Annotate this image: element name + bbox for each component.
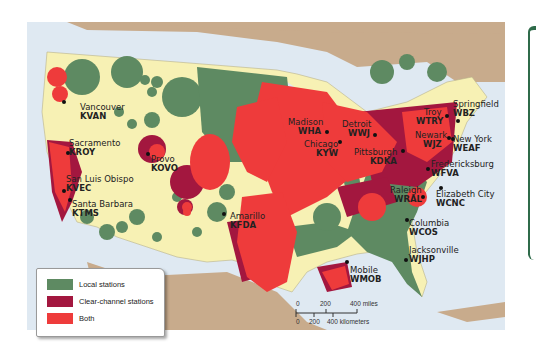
station-label-jacksonville: Jacksonville WJHP bbox=[409, 246, 459, 264]
call-sign: WEAF bbox=[453, 144, 492, 153]
station-label-fredericksburg: Fredericksburg WFVA bbox=[431, 160, 494, 178]
station-label-san-luis-obispo: San Luis Obispo KVEC bbox=[66, 175, 134, 193]
station-label-detroit: Detroit WWJ bbox=[342, 120, 371, 138]
station-label-columbia: Columbia WCOS bbox=[409, 219, 449, 237]
scale-tick: 400 kilometers bbox=[327, 318, 369, 325]
scale-line bbox=[295, 309, 365, 317]
call-sign: KDKA bbox=[370, 157, 397, 166]
station-label-amarillo: Amarillo KFDA bbox=[230, 212, 265, 230]
station-label-provo: Provo KOVO bbox=[151, 155, 178, 173]
call-sign: KVEC bbox=[66, 184, 134, 193]
both-swatch bbox=[47, 313, 73, 324]
call-sign: WRAL bbox=[394, 195, 422, 204]
local-swatch bbox=[47, 279, 73, 290]
call-sign: WJHP bbox=[409, 255, 459, 264]
station-marker bbox=[345, 260, 349, 264]
station-label-newark: Newark WJZ bbox=[415, 131, 447, 149]
call-sign: WWJ bbox=[348, 129, 371, 138]
station-label-elizabeth-city: Elizabeth City WCNC bbox=[436, 190, 494, 208]
station-marker bbox=[62, 100, 66, 104]
legend-label: Both bbox=[79, 314, 94, 323]
scale-tick: 400 miles bbox=[350, 300, 378, 307]
call-sign: WBZ bbox=[453, 109, 499, 118]
call-sign: KOVO bbox=[151, 164, 178, 173]
call-sign: KFDA bbox=[230, 221, 265, 230]
legend-item-both: Both bbox=[47, 312, 94, 324]
station-marker bbox=[445, 114, 449, 118]
call-sign: WTRY bbox=[416, 117, 443, 126]
station-marker bbox=[325, 130, 329, 134]
station-label-mobile: Mobile WMOB bbox=[350, 266, 382, 284]
call-sign: WJZ bbox=[423, 140, 447, 149]
map-legend: Local stations Clear-channel stations Bo… bbox=[36, 268, 165, 337]
scale-tick: 200 bbox=[320, 300, 331, 307]
station-marker bbox=[426, 167, 430, 171]
station-marker bbox=[338, 140, 342, 144]
scale-tick: 0 bbox=[296, 300, 300, 307]
station-label-new-york: New York WEAF bbox=[453, 135, 492, 153]
clear-channel-swatch bbox=[47, 296, 73, 307]
call-sign: WMOB bbox=[350, 275, 382, 284]
station-label-chicago: Chicago KYW bbox=[304, 140, 338, 158]
legend-label: Local stations bbox=[79, 280, 125, 289]
legend-label: Clear-channel stations bbox=[79, 297, 154, 306]
call-sign: KVAN bbox=[80, 112, 125, 121]
call-sign: WCOS bbox=[409, 228, 449, 237]
call-sign: WCNC bbox=[436, 199, 494, 208]
legend-item-clear-channel: Clear-channel stations bbox=[47, 295, 154, 307]
call-sign: KROY bbox=[69, 148, 120, 157]
station-marker bbox=[146, 152, 150, 156]
station-label-raleigh: Raleigh WRAL bbox=[388, 186, 422, 204]
legend-item-local: Local stations bbox=[47, 278, 125, 290]
station-marker bbox=[373, 133, 377, 137]
call-sign: KTMS bbox=[72, 209, 133, 218]
scale-bar: 0 200 400 miles 0 200 400 kilometers bbox=[295, 300, 405, 330]
station-label-santa-barbara: Santa Barbara KTMS bbox=[72, 200, 133, 218]
station-label-sacramento: Sacramento KROY bbox=[69, 139, 120, 157]
station-marker bbox=[404, 258, 408, 262]
call-sign: WHA bbox=[298, 127, 323, 136]
sidebar-panel-edge bbox=[528, 26, 536, 260]
station-marker bbox=[456, 119, 460, 123]
station-marker bbox=[401, 149, 405, 153]
station-label-madison: Madison WHA bbox=[288, 118, 323, 136]
station-label-troy: Troy WTRY bbox=[416, 108, 443, 126]
call-sign: KYW bbox=[316, 149, 338, 158]
scale-tick: 200 bbox=[309, 318, 320, 325]
scale-tick: 0 bbox=[296, 318, 300, 325]
station-label-vancouver: Vancouver KVAN bbox=[80, 103, 125, 121]
station-marker bbox=[222, 212, 226, 216]
station-label-pittsburgh: Pittsburgh KDKA bbox=[354, 148, 397, 166]
station-label-springfield: Springfield WBZ bbox=[453, 100, 499, 118]
call-sign: WFVA bbox=[431, 169, 494, 178]
